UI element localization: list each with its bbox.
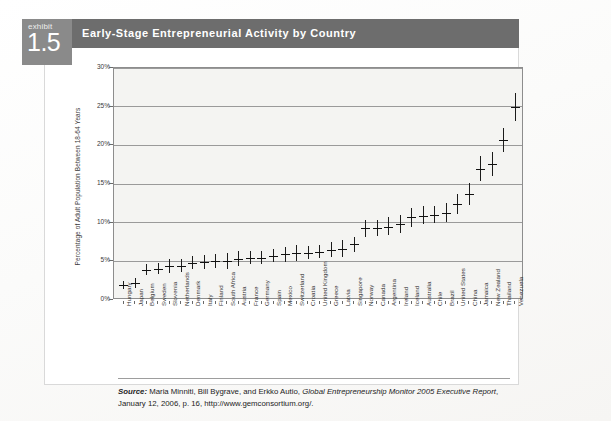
x-tick-mark [376, 301, 377, 304]
point-estimate-tick [396, 224, 405, 225]
point-estimate-tick [453, 204, 462, 205]
data-point-marker [442, 203, 451, 222]
y-tick-mark [109, 67, 113, 68]
source-prefix: Source: [118, 387, 147, 396]
x-tick-mark [215, 301, 216, 304]
point-estimate-tick [327, 250, 336, 251]
x-tick-mark [273, 301, 274, 304]
x-tick-label: Brazil [448, 290, 455, 306]
data-point-marker [223, 253, 232, 269]
data-point-marker [257, 251, 266, 264]
x-tick-label: France [252, 286, 259, 306]
x-tick-label: Chile [436, 292, 443, 306]
x-tick-label: Netherlands [183, 272, 190, 306]
x-tick-label: Greece [332, 285, 339, 306]
x-tick-mark [180, 301, 181, 304]
data-point-marker [154, 263, 163, 275]
data-point-marker [499, 128, 508, 152]
exhibit-number-badge: exhibit 1.5 [22, 19, 72, 65]
x-tick-mark [192, 301, 193, 304]
data-point-marker [511, 93, 520, 121]
x-tick-label: South Africa [229, 272, 236, 306]
x-tick-label: Finland [217, 285, 224, 306]
data-point-marker [269, 249, 278, 262]
x-tick-mark [123, 301, 124, 304]
x-tick-mark [238, 301, 239, 304]
x-tick-mark [503, 301, 504, 304]
point-estimate-tick [373, 228, 382, 229]
x-tick-mark [434, 301, 435, 304]
x-tick-label: Hungary [125, 282, 132, 306]
gridline [114, 222, 522, 223]
data-point-marker [338, 240, 347, 257]
data-point-marker [165, 259, 174, 273]
data-point-marker [131, 278, 140, 288]
x-tick-label: Sweden [160, 283, 167, 306]
x-tick-mark [399, 301, 400, 304]
point-estimate-tick [476, 169, 485, 170]
x-tick-mark [146, 301, 147, 304]
x-tick-label: Japan [137, 289, 144, 306]
x-tick-label: Croatia [309, 286, 316, 306]
point-estimate-tick [430, 215, 439, 216]
x-tick-mark [445, 301, 446, 304]
x-tick-label: Ireland [402, 287, 409, 306]
source-note: Source: Maria Minniti, Bill Bygrave, and… [118, 386, 514, 409]
data-point-marker [281, 247, 290, 262]
y-tick-mark [109, 260, 113, 261]
point-estimate-tick [488, 164, 497, 165]
x-tick-label: Spain [275, 290, 282, 306]
x-tick-mark [296, 301, 297, 304]
x-tick-label: China [471, 290, 478, 306]
data-point-marker [200, 255, 209, 269]
point-estimate-tick [131, 283, 140, 284]
exhibit-page: exhibit 1.5 Early-Stage Entrepreneurial … [0, 0, 611, 421]
x-tick-label: Australia [425, 281, 432, 306]
data-point-marker [361, 220, 370, 237]
data-point-marker [476, 156, 485, 181]
x-tick-label: Mexico [286, 286, 293, 306]
point-estimate-tick [234, 259, 243, 260]
exhibit-number: 1.5 [27, 30, 60, 55]
y-tick-mark [109, 144, 113, 145]
gridline [114, 68, 522, 69]
gridline [114, 145, 522, 146]
y-tick-mark [109, 222, 113, 223]
data-point-marker [430, 206, 439, 224]
x-tick-label: Thailand [505, 282, 512, 306]
point-estimate-tick [304, 253, 313, 254]
x-axis-tick-labels: HungaryJapanBelgiumSwedenSloveniaNetherl… [113, 301, 523, 371]
x-tick-label: Norway [367, 285, 374, 306]
x-tick-label: Denmark [194, 281, 201, 306]
data-point-marker [396, 215, 405, 233]
x-tick-mark [249, 301, 250, 304]
x-tick-mark [491, 301, 492, 304]
x-tick-label: Singapore [356, 277, 363, 306]
x-tick-mark [342, 301, 343, 304]
source-work-title: Global Entrepreneurship Monitor 2005 Exe… [302, 387, 496, 396]
x-tick-mark [319, 301, 320, 304]
data-point-marker [177, 259, 186, 272]
x-tick-mark [411, 301, 412, 304]
point-estimate-tick [384, 227, 393, 228]
data-point-marker [234, 251, 243, 266]
x-tick-label: Slovenia [171, 282, 178, 306]
data-point-marker [292, 245, 301, 260]
x-tick-label: United Kingdom [321, 261, 328, 306]
data-point-marker [304, 246, 313, 259]
point-estimate-tick [200, 262, 209, 263]
data-point-marker [419, 206, 428, 224]
gridline [114, 261, 522, 262]
x-tick-mark [480, 301, 481, 304]
chart: Percentage of Adult Population Between 1… [0, 0, 611, 421]
y-axis-tick-labels: 0%5%10%15%20%25%30% [84, 0, 110, 421]
x-tick-label: Argentina [390, 279, 397, 306]
point-estimate-tick [315, 252, 324, 253]
y-tick-mark [109, 299, 113, 300]
point-estimate-tick [165, 266, 174, 267]
point-estimate-tick [177, 266, 186, 267]
source-divider [118, 378, 510, 379]
point-estimate-tick [269, 256, 278, 257]
point-estimate-tick [407, 217, 416, 218]
data-point-marker [453, 194, 462, 214]
